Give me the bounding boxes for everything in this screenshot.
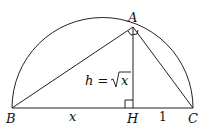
label-b: B [5, 111, 16, 126]
altitude-label-radicand: x [121, 73, 129, 88]
label-c: C [188, 111, 198, 126]
label-bh-length: x [69, 109, 77, 124]
geometry-diagram: A B C H x 1 h = x [0, 0, 204, 126]
right-angle-marker-h [125, 100, 133, 108]
altitude-label-prefix: h = [85, 73, 108, 88]
label-h: H [126, 111, 139, 126]
label-hc-length: 1 [159, 110, 167, 124]
segment-ab [12, 27, 133, 108]
semicircle-arc [12, 18, 193, 108]
label-a: A [127, 10, 137, 25]
altitude-label: h = x [85, 72, 131, 88]
